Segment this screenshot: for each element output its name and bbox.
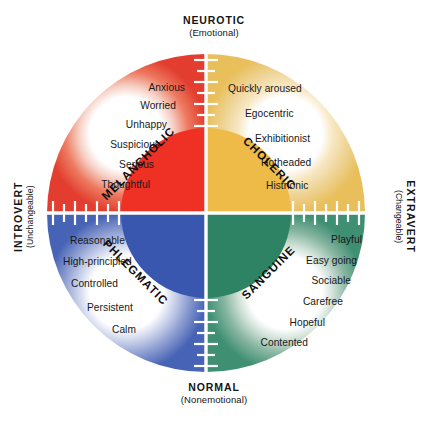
trait-label: Egocentric <box>245 108 373 119</box>
axis-label-normal: NORMAL (Nonemotional) <box>134 381 294 405</box>
trait-label: Quickly aroused <box>228 83 363 94</box>
axis-label-extravert: EXTRAVERT (Changeable) <box>393 157 416 277</box>
eysenck-personality-wheel: NEUROTIC (Emotional) NORMAL (Nonemotiona… <box>0 0 429 426</box>
trait-label: Worried <box>54 100 176 111</box>
axis-label-introvert: INTROVERT (Unchangeable) <box>12 157 35 277</box>
trait-label: Hopeful <box>210 317 325 328</box>
trait-label: Playful <box>258 234 362 245</box>
trait-label: Contented <box>190 337 308 348</box>
trait-label: Persistent <box>87 302 211 313</box>
axis-label-normal-main: NORMAL <box>134 381 294 394</box>
axis-label-introvert-sub: (Unchangeable) <box>25 157 35 277</box>
axis-label-neurotic-sub: (Emotional) <box>139 27 289 39</box>
trait-label: Reasonable <box>70 235 200 246</box>
axis-label-normal-sub: (Nonemotional) <box>134 394 294 406</box>
axis-label-extravert-sub: (Changeable) <box>393 157 403 277</box>
trait-label: Exhibitionist <box>255 133 381 144</box>
axis-label-neurotic-main: NEUROTIC <box>139 14 289 27</box>
trait-label: Unhappy <box>46 119 167 130</box>
axis-label-introvert-main: INTROVERT <box>12 157 25 277</box>
trait-label: Thoughtful <box>32 179 150 190</box>
axis-label-neurotic: NEUROTIC (Emotional) <box>139 14 289 38</box>
axis-label-extravert-main: EXTRAVERT <box>404 157 417 277</box>
trait-label: Calm <box>112 324 222 335</box>
trait-label: Anxious <box>60 82 185 93</box>
